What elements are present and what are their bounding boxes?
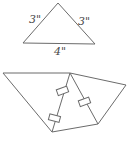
triangle-right-side-label: 3" [78,16,90,27]
hinges [48,86,90,122]
fold-line-left [52,73,70,132]
hinge-tape-1 [56,86,68,95]
diagram-canvas [0,0,129,145]
hinge-tape-2 [48,114,60,123]
folded-shape [3,73,126,132]
hinge-tape-3 [78,97,90,106]
triangle-left-side-label: 3" [29,14,41,25]
shape-outline [3,73,126,132]
triangle-base-label: 4" [54,46,66,57]
